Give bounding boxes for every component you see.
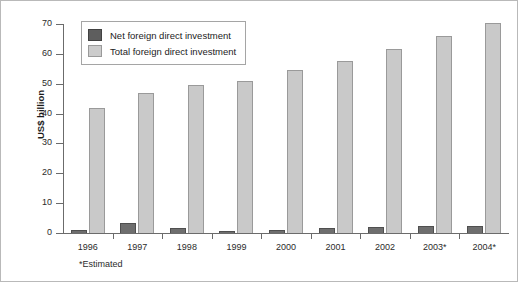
y-tick-label: 20 <box>42 167 52 178</box>
bar-total <box>436 36 452 233</box>
y-tick: 30 <box>56 143 63 144</box>
y-tick: 40 <box>56 114 63 115</box>
x-tick <box>162 233 163 239</box>
legend-swatch-total-icon <box>88 45 102 57</box>
y-tick-label: 50 <box>42 78 52 89</box>
x-tick <box>113 233 114 239</box>
bar-net <box>120 223 136 233</box>
y-tick-label: 30 <box>42 137 52 148</box>
x-tick <box>459 233 460 239</box>
y-tick-label: 40 <box>42 108 52 119</box>
legend-item-net: Net foreign direct investment <box>88 27 236 43</box>
bar-net <box>368 227 384 233</box>
x-tick <box>261 233 262 239</box>
y-tick: 0 <box>56 233 63 234</box>
bar-net <box>418 226 434 233</box>
y-tick: 70 <box>56 24 63 25</box>
y-tick-label: 70 <box>42 18 52 29</box>
bar-net <box>269 230 285 233</box>
legend-swatch-net-icon <box>88 29 102 41</box>
y-tick: 20 <box>56 173 63 174</box>
x-axis-label: 2004* <box>459 242 509 252</box>
y-tick: 60 <box>56 54 63 55</box>
x-tick <box>360 233 361 239</box>
bar-net <box>71 230 87 233</box>
y-tick: 10 <box>56 203 63 204</box>
chart-figure: US$ billion 010203040506070 199619971998… <box>0 0 518 282</box>
x-axis-label: 1996 <box>63 242 113 252</box>
x-axis-label: 2001 <box>311 242 361 252</box>
bar-total <box>485 23 501 233</box>
x-tick <box>212 233 213 239</box>
y-tick-label: 10 <box>42 197 52 208</box>
x-axis-label: 1999 <box>212 242 262 252</box>
x-axis-label: 1998 <box>162 242 212 252</box>
legend-item-total: Total foreign direct investment <box>88 43 236 59</box>
bar-net <box>219 231 235 233</box>
x-axis-label: 1997 <box>113 242 163 252</box>
plot-area: US$ billion 010203040506070 199619971998… <box>1 1 518 282</box>
bar-net <box>319 228 335 233</box>
bar-net <box>467 226 483 233</box>
bar-total <box>287 70 303 233</box>
bar-total <box>138 93 154 233</box>
x-axis-label: 2000 <box>261 242 311 252</box>
x-tick <box>410 233 411 239</box>
bar-total <box>188 85 204 233</box>
bar-net <box>170 228 186 233</box>
bar-total <box>237 81 253 233</box>
chart-legend: Net foreign direct investment Total fore… <box>81 21 246 65</box>
x-axis-label: 2003* <box>410 242 460 252</box>
bar-total <box>337 61 353 233</box>
x-axis-label: 2002 <box>360 242 410 252</box>
legend-label-net: Net foreign direct investment <box>110 30 231 41</box>
y-tick-label: 0 <box>47 227 52 238</box>
y-tick: 50 <box>56 84 63 85</box>
x-tick <box>311 233 312 239</box>
x-axis-line <box>63 233 509 234</box>
bar-total <box>386 49 402 233</box>
bar-total <box>89 108 105 233</box>
y-tick-label: 60 <box>42 48 52 59</box>
chart-footnote: *Estimated <box>79 259 123 269</box>
y-axis-line <box>63 24 64 234</box>
legend-label-total: Total foreign direct investment <box>110 46 236 57</box>
